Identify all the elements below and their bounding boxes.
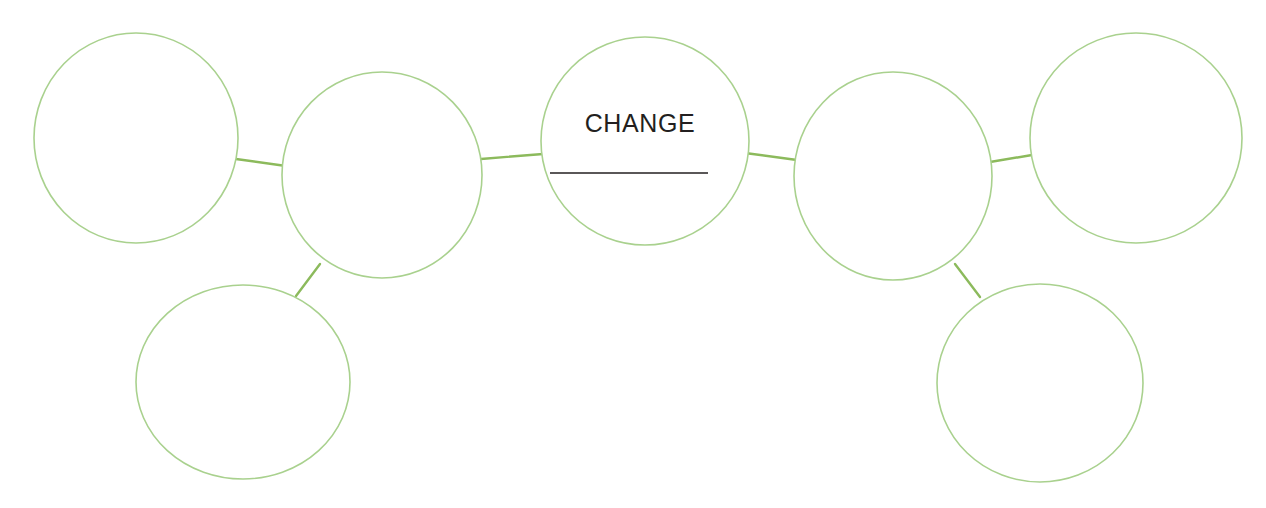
connector-center-to-right-inner (745, 153, 797, 160)
node-right-inner[interactable] (794, 72, 992, 280)
connector-left-inner-to-center (481, 154, 543, 159)
connector-left-inner-to-lower-left (296, 264, 320, 296)
node-left-inner[interactable] (282, 72, 482, 278)
node-lower-right[interactable] (937, 284, 1143, 482)
connector-right-inner-to-far-right (990, 155, 1032, 162)
node-center[interactable] (541, 37, 749, 245)
connector-right-inner-to-lower-right (955, 264, 980, 297)
node-lower-left[interactable] (136, 285, 350, 479)
cluster-web-diagram: CHANGE (0, 0, 1266, 508)
center-node-label: CHANGE (585, 109, 696, 137)
node-far-left[interactable] (34, 33, 238, 243)
node-far-right[interactable] (1030, 33, 1242, 243)
connector-far-left-to-left-inner (236, 159, 286, 166)
diagram-canvas: CHANGE (0, 0, 1266, 508)
center-node-group: CHANGE (541, 37, 749, 245)
